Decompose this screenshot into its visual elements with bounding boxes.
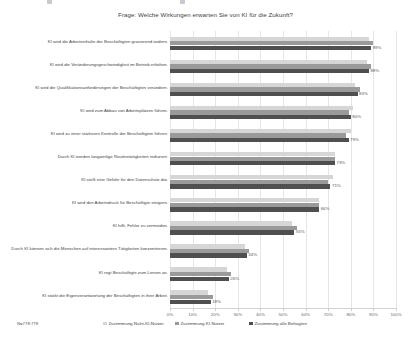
x-axis-tick-label: 80%	[346, 312, 355, 317]
category-label: KI wird zu einer stärkeren Kontrolle der…	[0, 131, 168, 136]
category-label: KI wird die Veränderungsgeschwindigkeit …	[0, 62, 168, 67]
legend-label: Zustimmung Nicht-KI-Nutzer	[108, 321, 163, 326]
x-gridline	[396, 31, 397, 308]
category-label: Durch KI werden langweilige Routinetätig…	[0, 154, 168, 159]
bar-data-label: 80%	[351, 114, 361, 119]
x-axis-tick	[238, 308, 239, 311]
x-axis-tick	[351, 308, 352, 311]
bar-data-label: 26%	[229, 276, 239, 281]
bar-series-2	[170, 69, 369, 73]
x-axis-tick	[193, 308, 194, 311]
legend-swatch-icon	[249, 322, 253, 326]
x-axis-tick	[373, 308, 374, 311]
bar-data-label: 83%	[358, 91, 368, 96]
category-label: KI hilft, Fehler zu vermeiden.	[0, 223, 168, 228]
legend-label: Zustimmung KI-Nutzer	[180, 321, 224, 326]
category-label: KI wird die Arbeitsinhalte der Beschäfti…	[0, 39, 168, 44]
x-axis-tick-label: 20%	[211, 312, 220, 317]
chart-plot-area: 0%10%20%30%40%50%60%70%80%90%100%89%88%8…	[170, 31, 396, 308]
page-top-artifact	[0, 0, 411, 8]
bar-data-label: 88%	[369, 68, 379, 73]
category-label: KI regt Beschäftigte zum Lernen an.	[0, 270, 168, 275]
bar-data-label: 89%	[371, 45, 381, 50]
x-axis-tick	[328, 308, 329, 311]
x-axis-tick	[170, 308, 171, 311]
x-axis-tick	[283, 308, 284, 311]
chart-legend: Zustimmung Nicht-KI-NutzerZustimmung KI-…	[103, 321, 403, 331]
bar-data-label: 79%	[349, 137, 359, 142]
bar-series-2	[170, 161, 335, 165]
bar-series-2	[170, 230, 294, 234]
sample-size-note: N=778:778	[17, 321, 38, 326]
legend-item[interactable]: Zustimmung alle Befragten	[249, 321, 307, 326]
x-axis-tick	[396, 308, 397, 311]
x-axis-tick-label: 50%	[279, 312, 288, 317]
artifact-mark-right	[180, 0, 185, 4]
category-label: KI wird die Qualifikationsanforderungen …	[0, 85, 168, 90]
bar-series-2	[170, 253, 247, 257]
artifact-mark-left	[47, 0, 52, 4]
bar-data-label: 66%	[319, 206, 329, 211]
x-axis-tick-label: 10%	[188, 312, 197, 317]
category-label: Durch KI können sich die Menschen auf in…	[0, 246, 168, 251]
bar-series-2	[170, 184, 330, 188]
category-label: KI wird zum Abbau von Arbeitsplätzen füh…	[0, 108, 168, 113]
legend-item[interactable]: Zustimmung Nicht-KI-Nutzer	[103, 321, 164, 326]
chart-title: Frage: Welche Wirkungen erwarten Sie von…	[0, 11, 411, 18]
legend-label: Zustimmung alle Befragten	[254, 321, 306, 326]
bar-series-2	[170, 115, 351, 119]
bar-data-label: 71%	[330, 183, 340, 188]
bar-series-2	[170, 207, 319, 211]
bar-data-label: 73%	[335, 160, 345, 165]
category-label: KI wird den Arbeitsdruck für Beschäftigt…	[0, 200, 168, 205]
x-axis-tick	[215, 308, 216, 311]
bar-data-label: 34%	[247, 252, 257, 257]
bar-series-2	[170, 277, 229, 281]
x-axis-tick-label: 90%	[369, 312, 378, 317]
bar-data-label: 55%	[294, 229, 304, 234]
bar-series-2	[170, 138, 349, 142]
bar-data-label: 18%	[211, 299, 221, 304]
legend-swatch-icon	[103, 322, 107, 326]
legend-item[interactable]: Zustimmung KI-Nutzer	[175, 321, 224, 326]
bar-series-2	[170, 300, 211, 304]
x-axis-tick-label: 40%	[256, 312, 265, 317]
x-axis-tick	[306, 308, 307, 311]
x-axis-tick-label: 0%	[167, 312, 173, 317]
category-label: KI stärkt die Eigenverantwortung der Bes…	[0, 293, 168, 298]
x-axis-tick-label: 100%	[390, 312, 401, 317]
x-axis-tick-label: 30%	[233, 312, 242, 317]
bar-series-2	[170, 46, 371, 50]
x-axis-tick-label: 60%	[301, 312, 310, 317]
category-label: KI stellt eine Gefahr für den Datenschut…	[0, 177, 168, 182]
chart-page: Frage: Welche Wirkungen erwarten Sie von…	[0, 0, 411, 337]
legend-swatch-icon	[175, 322, 179, 326]
x-axis-tick-label: 70%	[324, 312, 333, 317]
category-labels: KI wird die Arbeitsinhalte der Beschäfti…	[0, 31, 168, 308]
x-axis-tick	[260, 308, 261, 311]
bar-series-2	[170, 92, 358, 96]
